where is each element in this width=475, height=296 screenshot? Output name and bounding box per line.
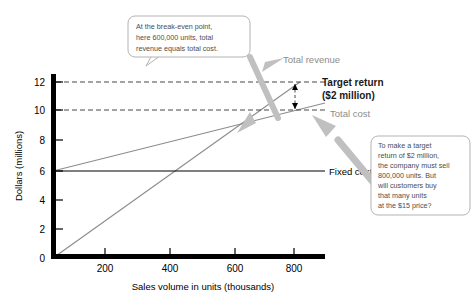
y-tick-label-0: 0 [39, 253, 45, 264]
y-tick-label-4: 4 [39, 195, 45, 206]
y-tick-label-8: 8 [39, 135, 45, 146]
x-axis [51, 254, 325, 259]
callout-break-even-line2: here 600,000 units, total [136, 33, 214, 42]
break-even-chart: 12 10 8 6 4 2 0 200 400 600 800 Dollars … [0, 0, 475, 296]
callout-break-even-line3: revenue equals total cost. [136, 44, 218, 53]
x-tick-label-600: 600 [227, 263, 244, 274]
arrow-down-icon [292, 103, 298, 109]
callout-target-line7: at the $15 price? [378, 201, 432, 210]
callout-target-line4: 800,000 units. But [378, 171, 436, 180]
target-return-label-line2: ($2 million) [322, 90, 375, 101]
y-tick-label-12: 12 [34, 77, 46, 88]
y-tick-label-2: 2 [39, 224, 45, 235]
y-axis [51, 74, 56, 259]
callout-target-line2: return of $2 million, [378, 151, 439, 160]
y-axis-title: Dollars (millions) [13, 131, 24, 201]
callout-break-even-line1: At the break-even point, [136, 22, 212, 31]
callout-target-line3: the company must sell [378, 161, 450, 170]
callout-target-line5: will customers buy [377, 181, 437, 190]
chart-svg: 12 10 8 6 4 2 0 200 400 600 800 Dollars … [0, 0, 475, 296]
x-tick-label-200: 200 [97, 263, 114, 274]
x-axis-title: Sales volume in units (thousands) [132, 281, 275, 292]
total-cost-label: Total cost [330, 108, 370, 119]
target-return-label-line1: Target return [322, 77, 384, 88]
y-tick-label-6: 6 [39, 166, 45, 177]
total-revenue-line [53, 82, 300, 258]
x-tick-label-800: 800 [286, 263, 303, 274]
total-revenue-label: Total revenue [283, 54, 340, 65]
callout-target-line1: To make a target [378, 141, 432, 150]
callout-break-even-tail [262, 58, 284, 72]
x-tick-label-400: 400 [162, 263, 179, 274]
y-tick-label-10: 10 [34, 105, 46, 116]
callout-target-line6: that many units [378, 191, 427, 200]
